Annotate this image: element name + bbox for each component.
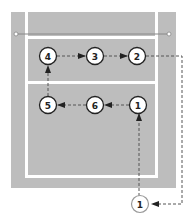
svg-text:1: 1 (137, 200, 143, 210)
player-5: 5 (40, 97, 57, 114)
svg-text:3: 3 (92, 52, 98, 62)
svg-text:6: 6 (92, 101, 98, 111)
player-2: 2 (129, 48, 146, 65)
net-post-left (14, 32, 18, 36)
player-4: 4 (40, 48, 57, 65)
svg-text:1: 1 (135, 101, 141, 111)
baseline (25, 175, 158, 178)
center-line (25, 36, 158, 39)
player-1: 1 (130, 97, 147, 114)
attack-line (25, 81, 158, 84)
svg-text:2: 2 (134, 52, 140, 62)
server-position: 1 (132, 196, 149, 213)
player-6: 6 (87, 97, 104, 114)
net-post-right (167, 32, 171, 36)
svg-text:5: 5 (45, 101, 51, 111)
rotation-diagram: 4 3 2 5 6 1 1 (0, 0, 195, 223)
player-3: 3 (87, 48, 104, 65)
svg-text:4: 4 (45, 52, 51, 62)
